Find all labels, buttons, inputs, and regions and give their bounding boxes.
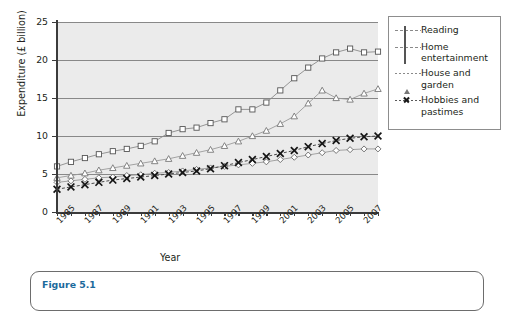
y-tick-mark <box>52 174 56 175</box>
legend-item-house-and-garden[interactable]: House and garden <box>395 67 495 89</box>
triangle-data-point <box>263 127 269 133</box>
legend-label: Hobbies and pastimes <box>421 94 495 116</box>
square-data-point <box>208 120 213 125</box>
square-data-point <box>222 117 227 122</box>
square-data-point <box>361 50 366 55</box>
series-layer <box>57 22 378 212</box>
x-tick-mark <box>99 212 100 216</box>
diamond-data-point <box>68 178 74 184</box>
square-data-point <box>124 146 129 151</box>
diamond-data-point <box>277 157 283 163</box>
x-tick-mark <box>71 212 72 216</box>
x-data-point <box>291 147 298 154</box>
triangle-marker-icon <box>395 68 421 79</box>
square-data-point <box>306 65 311 70</box>
legend-item-hobbies-and-pastimes[interactable]: Hobbies and pastimes <box>395 94 495 116</box>
square-data-point <box>264 100 269 105</box>
x-axis-line <box>56 212 379 214</box>
x-axis-label: Year <box>160 252 180 263</box>
y-tick-mark <box>52 22 56 23</box>
diamond-data-point <box>361 146 367 152</box>
square-data-point <box>347 46 352 51</box>
square-data-point <box>82 155 87 160</box>
diamond-data-point <box>305 152 311 158</box>
diamond-data-point <box>319 150 325 156</box>
square-data-point <box>194 125 199 130</box>
x-tick-mark <box>294 212 295 216</box>
square-marker-icon <box>395 42 421 53</box>
x-tick-mark <box>155 212 156 216</box>
square-data-point <box>334 50 339 55</box>
x-data-point <box>319 140 326 147</box>
x-tick-mark <box>322 212 323 216</box>
x-tick-mark <box>211 212 212 216</box>
plot-area <box>57 22 378 212</box>
y-tick-mark <box>52 98 56 99</box>
legend-item-home-entertainment[interactable]: Home entertainment <box>395 41 495 63</box>
legend-item-reading[interactable]: Reading <box>395 24 495 36</box>
y-tick-label: 5 <box>22 169 48 178</box>
triangle-data-point <box>249 133 255 139</box>
x-tick-mark <box>266 212 267 216</box>
square-data-point <box>110 149 115 154</box>
y-tick-mark <box>52 60 56 61</box>
square-data-point <box>152 139 157 144</box>
diamond-data-point <box>291 154 297 160</box>
x-tick-mark <box>350 212 351 216</box>
triangle-data-point <box>277 121 283 127</box>
x-data-point <box>375 133 382 140</box>
square-data-point <box>166 130 171 135</box>
series-line <box>57 149 378 182</box>
chart-legend: Reading Home entertainment House and gar… <box>388 16 501 130</box>
x-tick-mark <box>127 212 128 216</box>
x-tick-mark <box>238 212 239 216</box>
triangle-data-point <box>375 86 381 92</box>
x-marker-icon <box>395 95 421 106</box>
triangle-data-point <box>235 138 241 144</box>
square-data-point <box>250 107 255 112</box>
square-data-point <box>68 159 73 164</box>
legend-label: House and garden <box>421 67 495 89</box>
square-data-point <box>96 152 101 157</box>
y-tick-label: 0 <box>22 207 48 216</box>
x-tick-mark <box>183 212 184 216</box>
legend-label: Home entertainment <box>421 41 495 63</box>
series-line <box>57 136 378 189</box>
square-data-point <box>292 76 297 81</box>
triangle-data-point <box>319 87 325 93</box>
square-data-point <box>320 56 325 61</box>
y-axis-line <box>56 20 58 214</box>
square-data-point <box>180 127 185 132</box>
caption-label: Figure 5.1 <box>42 279 96 290</box>
legend-label: Reading <box>421 24 459 35</box>
y-tick-mark <box>52 212 56 213</box>
square-data-point <box>375 49 380 54</box>
triangle-data-point <box>333 95 339 101</box>
x-data-point <box>305 143 312 150</box>
caption-box: Figure 5.1 <box>30 271 484 311</box>
diamond-data-point <box>333 147 339 153</box>
series-line <box>57 89 378 178</box>
x-data-point <box>277 150 284 157</box>
square-data-point <box>236 107 241 112</box>
x-data-point <box>361 133 368 140</box>
diamond-data-point <box>347 147 353 153</box>
diamond-data-point <box>375 146 381 152</box>
diamond-marker-icon <box>395 25 421 36</box>
series-line <box>57 49 378 167</box>
square-data-point <box>278 88 283 93</box>
y-axis-label: Expenditure (£ billion) <box>16 0 27 139</box>
x-tick-mark <box>378 212 379 216</box>
y-tick-mark <box>52 136 56 137</box>
square-data-point <box>138 143 143 148</box>
